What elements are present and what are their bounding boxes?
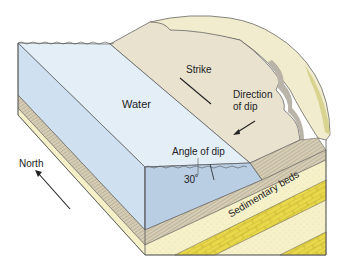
label-water: Water <box>122 99 151 110</box>
strike-dip-diagram <box>0 0 351 273</box>
label-north: North <box>19 158 43 169</box>
label-angle-of-dip: Angle of dip <box>172 146 225 157</box>
label-strike: Strike <box>186 64 212 75</box>
north-arrow <box>38 173 70 209</box>
label-angle-value: 30˚ <box>184 174 198 185</box>
label-direction-of-dip-2: of dip <box>233 101 257 112</box>
label-direction-of-dip-1: Direction <box>233 89 272 100</box>
